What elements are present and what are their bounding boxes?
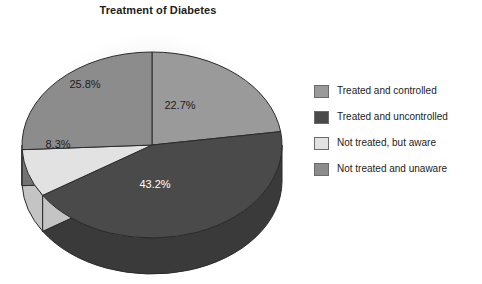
chart-legend: Treated and controlled Treated and uncon… [314,78,482,182]
legend-item[interactable]: Treated and uncontrolled [314,104,482,130]
legend-swatch-icon [314,137,329,150]
slice-value-label-1: 43.2% [139,178,170,190]
legend-item[interactable]: Treated and controlled [314,78,482,104]
slice-value-label-3: 25.8% [69,78,100,90]
legend-item-label: Treated and uncontrolled [337,111,448,123]
pie-plot-area: 22.7% 43.2% 8.3% 25.8% [0,20,320,284]
legend-swatch-icon [314,85,329,98]
slice-value-label-2: 8.3% [45,138,70,150]
slice-value-label-0: 22.7% [164,99,195,111]
legend-swatch-icon [314,111,329,124]
legend-item-label: Not treated, but aware [337,137,436,149]
legend-item[interactable]: Not treated and unaware [314,156,482,182]
pie-geometry [22,52,282,274]
legend-item-label: Treated and controlled [337,85,437,97]
chart-title: Treatment of Diabetes [0,4,316,16]
legend-item[interactable]: Not treated, but aware [314,130,482,156]
pie-svg: 22.7% 43.2% 8.3% 25.8% [0,20,320,284]
legend-item-label: Not treated and unaware [337,163,447,175]
pie-chart-figure: Treatment of Diabetes 22.7% 43.2% 8.3% 2… [0,0,482,284]
legend-swatch-icon [314,163,329,176]
pie-slice-3[interactable] [22,52,152,150]
